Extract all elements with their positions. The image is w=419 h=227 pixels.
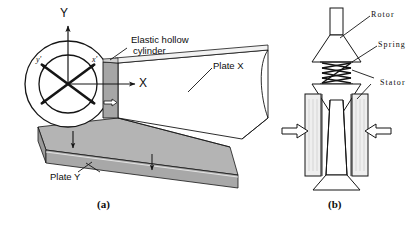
pressure-arrow-right <box>365 124 391 138</box>
bottom-cone <box>313 175 360 190</box>
panel-b-drawing <box>0 0 419 227</box>
figure-container: Y X y' x' Elastic hollow cylinder Plate … <box>0 0 419 227</box>
label-spring: Spring <box>378 40 406 49</box>
hollow-cylinder-b <box>326 100 347 175</box>
pressure-arrow-left <box>282 124 308 138</box>
label-stator: Stator <box>380 78 406 87</box>
spring-coil <box>320 62 353 84</box>
rotor-shaft <box>330 8 343 35</box>
label-rotor: Rotor <box>371 10 395 19</box>
caption-panel-b: (b) <box>328 198 341 210</box>
rotor-cone-upper <box>312 35 361 62</box>
